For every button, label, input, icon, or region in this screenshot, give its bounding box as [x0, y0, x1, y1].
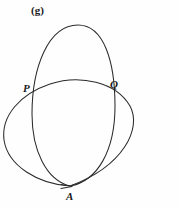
wide-tilted-ellipse-curve: [4, 80, 134, 186]
point-label-q: Q: [110, 79, 118, 90]
curve-diagram: [0, 0, 179, 209]
vertical-oval-curve: [32, 25, 115, 186]
figure-container: (g) P Q A: [0, 0, 179, 209]
direction-arrowhead-icon: [61, 185, 72, 189]
point-label-a: A: [66, 191, 73, 202]
point-label-p: P: [23, 83, 30, 94]
